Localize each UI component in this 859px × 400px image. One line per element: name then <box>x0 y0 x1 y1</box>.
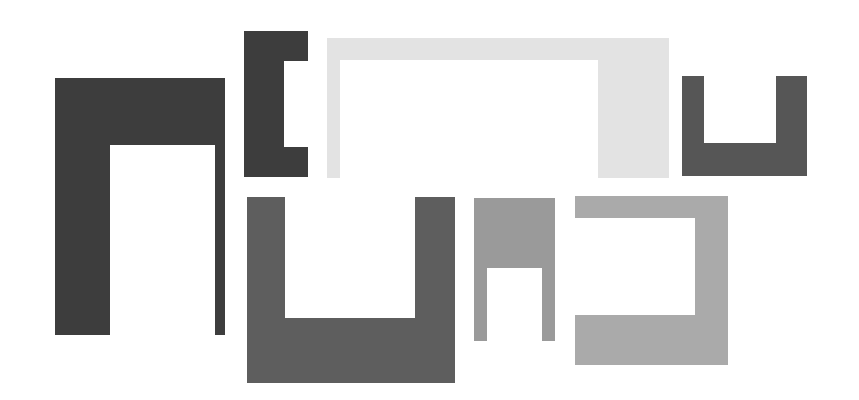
c-bracket-light-gray-reversed-fill <box>575 196 728 365</box>
artboard <box>0 0 859 400</box>
inverted-u-bracket-light-wide-fill <box>327 38 669 178</box>
inverted-u-bracket-light-wide <box>327 38 669 178</box>
u-bracket-dark-right-glyph <box>682 76 807 176</box>
inverted-u-bracket-gray-small <box>474 198 555 341</box>
inverted-u-bracket-dark-large-glyph <box>55 78 225 335</box>
c-bracket-dark-small-glyph <box>244 31 308 177</box>
c-bracket-light-gray-reversed-glyph <box>575 196 728 365</box>
c-bracket-dark-small-fill <box>244 31 308 177</box>
inverted-u-bracket-gray-small-fill <box>474 198 555 341</box>
c-bracket-light-gray-reversed <box>575 196 728 365</box>
c-bracket-dark-small <box>244 31 308 177</box>
u-bracket-mid-gray-large <box>247 197 455 383</box>
inverted-u-bracket-gray-small-glyph <box>474 198 555 341</box>
inverted-u-bracket-dark-large <box>55 78 225 335</box>
u-bracket-mid-gray-large-glyph <box>247 197 455 383</box>
inverted-u-bracket-light-wide-glyph <box>327 38 669 178</box>
u-bracket-mid-gray-large-fill <box>247 197 455 383</box>
u-bracket-dark-right <box>682 76 807 176</box>
inverted-u-bracket-dark-large-fill <box>55 78 225 335</box>
u-bracket-dark-right-fill <box>682 76 807 176</box>
